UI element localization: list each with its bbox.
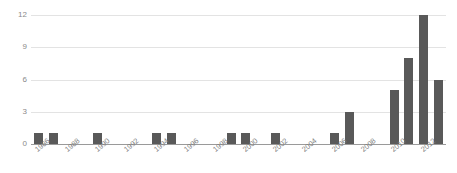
gridline [31,47,446,48]
plot-area: 129630 [31,15,446,144]
x-axis-tick-labels: 1986198819901992199419961998200020022004… [31,0,446,30]
y-axis-tick-label: 0 [5,140,27,148]
x-axis-line [31,144,446,145]
bar [404,58,413,144]
gridline [31,112,446,113]
bar-chart: 129630 198619881990199219941996199820002… [0,0,457,173]
y-axis-tick-label: 12 [5,11,27,19]
y-axis-tick-label: 9 [5,43,27,51]
y-axis-tick-label: 6 [5,76,27,84]
gridline [31,80,446,81]
bar [390,90,399,144]
bar [345,112,354,144]
bar [419,15,428,144]
y-axis-tick-label: 3 [5,108,27,116]
bar [434,80,443,145]
